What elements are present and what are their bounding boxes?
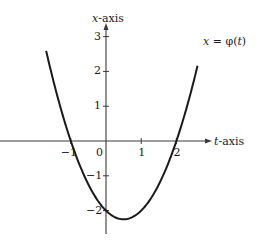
x-tick-label: −2 <box>86 205 102 216</box>
x-tick-label: −1 <box>86 170 102 181</box>
axis-ticks <box>71 37 177 211</box>
x-tick-label: 2 <box>94 65 101 76</box>
x-tick-label: 3 <box>94 31 101 42</box>
curve-label-close: ) <box>242 35 246 48</box>
x-tick-label: 1 <box>94 100 101 111</box>
t-tick-label: 0 <box>96 147 103 158</box>
y-axis-label: x-axis <box>92 13 124 24</box>
t-axis-suffix: -axis <box>218 135 244 148</box>
curve-phi <box>46 51 197 219</box>
y-axis-suffix: -axis <box>98 12 124 25</box>
t-tick-label: −1 <box>61 147 77 158</box>
t-tick-label: 2 <box>173 147 180 158</box>
t-axis-arrow-icon <box>205 139 212 144</box>
curve-label-eq: = φ( <box>209 35 237 48</box>
t-tick-label: 1 <box>138 147 145 158</box>
curve-label: x = φ(t) <box>203 36 246 47</box>
x-axis-label: t-axis <box>214 136 244 147</box>
